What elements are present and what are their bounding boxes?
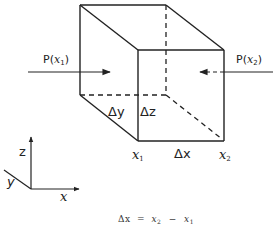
label-p-x2-suffix: )	[258, 53, 262, 66]
label-p-x2: P(x2)	[236, 54, 262, 67]
label-p-x1-prefix: P(	[43, 53, 54, 66]
control-volume-diagram	[0, 0, 273, 233]
cube-edge-top-right-depth	[166, 5, 224, 50]
cube	[80, 5, 224, 141]
coordinate-axes	[4, 137, 79, 189]
label-p-x2-prefix: P(	[236, 53, 247, 66]
label-x2-sub: 2	[226, 155, 230, 163]
formula-equals: =	[137, 214, 145, 224]
axis-label-z: z	[19, 145, 26, 158]
formula-minus: −	[169, 214, 177, 224]
axis-label-x: x	[60, 190, 67, 203]
formula-delta-x: Δx = x2 − x1	[118, 214, 194, 225]
label-delta-y: Δy	[108, 105, 125, 118]
formula-x1-sub: 1	[190, 218, 194, 225]
label-x1-sub: 1	[139, 155, 143, 163]
cube-hidden-edge-bottom-right-depth	[166, 95, 222, 139]
label-p-x1-suffix: )	[65, 53, 69, 66]
label-delta-z: Δz	[140, 105, 156, 118]
axis-label-y: y	[7, 175, 15, 188]
label-x2: x2	[219, 148, 231, 163]
formula-x2-sub: 2	[157, 218, 161, 225]
label-p-x1: P(x1)	[43, 54, 69, 67]
label-delta-x: Δx	[174, 147, 191, 160]
formula-lhs: Δx	[118, 214, 131, 224]
cube-edge-top-left-depth	[80, 5, 138, 50]
label-x1: x1	[132, 148, 144, 163]
